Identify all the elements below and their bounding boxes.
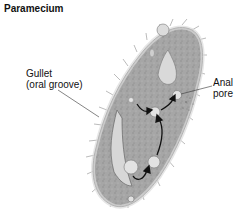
micronucleus [150,49,155,57]
gullet-leader-line [58,90,99,117]
paramecium-illustration [0,0,240,223]
label-anal-line1: Anal [213,77,233,88]
contractile-vacuole-top [157,24,169,36]
label-anal-line2: pore [213,88,233,99]
label-gullet-line1: Gullet [26,68,83,79]
label-anal-pore: Anal pore [213,77,233,99]
cell-body [93,28,203,207]
label-gullet: Gullet (oral groove) [26,68,83,90]
label-gullet-line2: (oral groove) [26,79,83,90]
